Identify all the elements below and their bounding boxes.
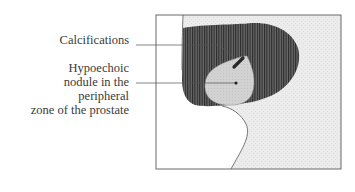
diagram-canvas (0, 0, 355, 192)
